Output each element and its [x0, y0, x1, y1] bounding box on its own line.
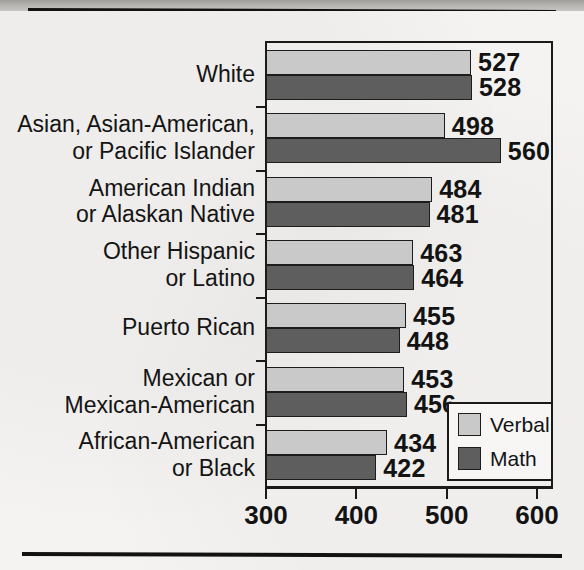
bar-math — [266, 202, 430, 227]
x-axis-tick — [446, 488, 448, 499]
category-label: American Indian or Alaskan Native — [0, 175, 255, 229]
bar-math — [266, 328, 400, 353]
bar-chart: WhiteAsian, Asian-American, or Pacific I… — [0, 0, 584, 570]
category-tick — [256, 170, 265, 172]
bar-verbal — [266, 50, 471, 75]
bar-value-label: 527 — [478, 50, 520, 75]
x-axis-tick-label: 300 — [244, 500, 287, 531]
bar-value-label: 560 — [508, 139, 550, 164]
x-axis-tick — [536, 488, 538, 499]
category-tick — [256, 424, 265, 426]
bar-verbal — [266, 177, 432, 202]
x-axis-tick — [355, 488, 357, 499]
bar-verbal — [266, 367, 404, 392]
bar-value-label: 464 — [421, 266, 463, 291]
math-swatch-icon — [458, 447, 481, 470]
bar-value-label: 498 — [452, 114, 494, 139]
legend-label-verbal: Verbal — [490, 414, 550, 435]
x-axis-tick-label: 400 — [335, 500, 378, 531]
bar-value-label: 484 — [439, 177, 481, 202]
bar-verbal — [266, 303, 406, 328]
scanned-page: WhiteAsian, Asian-American, or Pacific I… — [0, 0, 584, 570]
category-label: Other Hispanic or Latino — [0, 238, 255, 292]
bar-math — [266, 455, 376, 480]
category-tick — [256, 106, 265, 108]
bar-math — [266, 75, 472, 100]
category-tick — [256, 360, 265, 362]
bar-value-label: 434 — [394, 431, 436, 456]
bar-value-label: 455 — [413, 304, 455, 329]
category-label: Mexican or Mexican-American — [0, 365, 255, 419]
bar-verbal — [266, 430, 387, 455]
bar-value-label: 481 — [437, 202, 479, 227]
bar-value-label: 422 — [383, 456, 425, 481]
category-label: Asian, Asian-American, or Pacific Island… — [0, 111, 255, 165]
bar-value-label: 528 — [479, 75, 521, 100]
category-label: Puerto Rican — [0, 314, 255, 341]
category-tick — [256, 297, 265, 299]
x-axis-tick-label: 600 — [515, 500, 558, 531]
verbal-swatch-icon — [458, 413, 481, 436]
x-axis-tick-label: 500 — [425, 500, 468, 531]
bar-verbal — [266, 240, 413, 265]
bar-verbal — [266, 113, 445, 138]
category-tick — [256, 233, 265, 235]
legend-label-math: Math — [490, 448, 537, 469]
legend-item-math: Math — [458, 447, 537, 470]
bar-math — [266, 265, 414, 290]
chart-legend: Verbal Math — [447, 402, 553, 481]
bar-math — [266, 138, 501, 163]
value-axis — [265, 487, 553, 489]
x-axis-tick — [265, 488, 267, 499]
category-label: White — [0, 61, 255, 88]
bar-value-label: 463 — [420, 241, 462, 266]
bar-value-label: 453 — [411, 367, 453, 392]
bar-math — [266, 392, 407, 417]
category-label: African-American or Black — [0, 428, 255, 482]
legend-item-verbal: Verbal — [458, 413, 550, 436]
bar-value-label: 448 — [407, 329, 449, 354]
